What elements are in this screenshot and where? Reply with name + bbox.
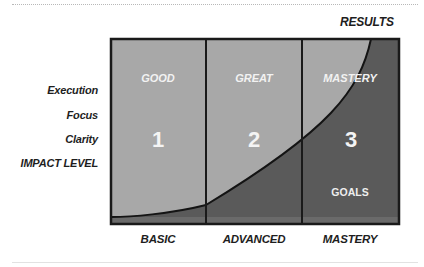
- impact-diagram: GOOD GREAT MASTERY 1 2 3 GOALS: [0, 0, 424, 267]
- x-label-mastery: MASTERY: [302, 233, 398, 245]
- cell-title-great: GREAT: [235, 72, 274, 84]
- x-label-advanced: ADVANCED: [206, 233, 302, 245]
- x-label-basic: BASIC: [110, 233, 206, 245]
- cell-title-mastery: MASTERY: [323, 72, 378, 84]
- cell-title-good: GOOD: [141, 72, 175, 84]
- cell-number-1: 1: [152, 127, 164, 152]
- goals-label: GOALS: [331, 186, 368, 198]
- cell-number-3: 3: [345, 127, 357, 152]
- cell-number-2: 2: [248, 127, 260, 152]
- bottom-divider: [12, 262, 418, 263]
